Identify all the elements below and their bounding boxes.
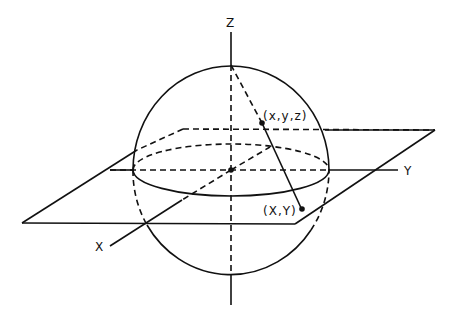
z-axis-label: Z [226,16,235,30]
sphere-point-label: (x,y,z) [263,109,308,123]
diagram-canvas: Z Y X (x,y,z) (X,Y) [0,0,454,320]
projection-ray [231,65,302,210]
x-axis-label: X [95,240,104,254]
origin-point [228,167,234,173]
axes [110,32,398,305]
plane-point-label: (X,Y) [263,204,297,218]
plane-point [299,206,305,212]
y-axis-label: Y [403,164,412,178]
stereographic-projection-diagram: Z Y X (x,y,z) (X,Y) [0,0,454,320]
